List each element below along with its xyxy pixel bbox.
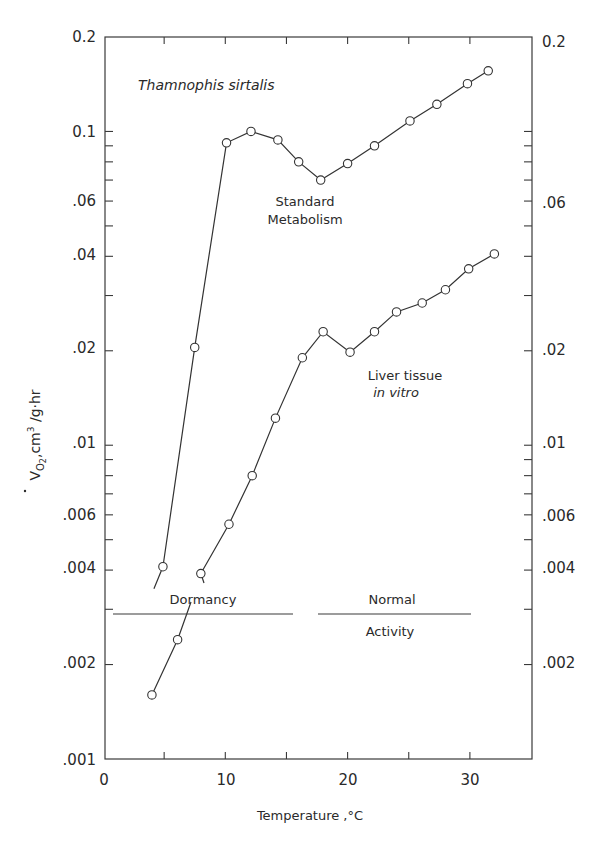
standard-metabolism-point [343, 159, 351, 167]
y-title-unit: ,cm [27, 432, 43, 458]
standard-metabolism-point [274, 136, 282, 144]
standard-metabolism-point [159, 563, 167, 571]
chart-title: Thamnophis sirtalis [138, 77, 275, 93]
y-tick-label: .01 [72, 434, 96, 452]
standard-metabolism-point [433, 100, 441, 108]
standard-metabolism-point [484, 67, 492, 75]
y-axis-left-labels: 0.2 0.1 .06 .04 .02 .01 .006 .004 .002 .… [63, 28, 96, 769]
y-tick-label: 0.1 [72, 123, 96, 141]
y-tick-label: .04 [72, 246, 96, 264]
standard-metabolism-point [316, 176, 324, 184]
liver-tissue-point [441, 286, 449, 294]
activity-label: Activity [366, 624, 415, 639]
liver-tissue-point [418, 299, 426, 307]
y-title-dot [24, 490, 26, 492]
x-axis-title: Temperature ,°C [256, 808, 363, 823]
series-label-standard-2: Metabolism [267, 212, 342, 227]
liver-tissue-point [464, 265, 472, 273]
liver-tissue-point [490, 250, 498, 258]
liver-tissue-point [370, 328, 378, 336]
x-tick-label: 20 [338, 771, 357, 789]
standard-metabolism-point [191, 343, 199, 351]
y-tick-label: .06 [72, 192, 96, 210]
liver-tissue-line-lower [152, 602, 191, 695]
y-tick-label: 0.2 [72, 28, 96, 46]
y-tick-label: .006 [63, 506, 96, 524]
axis-ticks [105, 37, 532, 759]
series-label-standard-1: Standard [275, 194, 334, 209]
y-tick-label: .02 [72, 339, 96, 357]
liver-tissue-line-upper [201, 254, 495, 583]
liver-tissue-point [346, 348, 354, 356]
svg-text:VO2,cm3 /g·hr: VO2,cm3 /g·hr [26, 389, 48, 480]
standard-metabolism-point [294, 158, 302, 166]
liver-tissue-point [298, 354, 306, 362]
liver-tissue-point [225, 520, 233, 528]
liver-tissue-point [148, 691, 156, 699]
standard-metabolism-point [370, 142, 378, 150]
y-tick-label-right: .006 [542, 507, 575, 525]
plot-frame [105, 37, 532, 759]
y-axis-title: VO2,cm3 /g·hr [24, 389, 48, 492]
y-tick-label-right: .06 [542, 194, 566, 212]
y-tick-label: .001 [63, 751, 96, 769]
standard-metabolism-point [222, 139, 230, 147]
series-label-liver-2: in vitro [373, 385, 419, 400]
liver-tissue-point [392, 308, 400, 316]
y-tick-label: .002 [63, 654, 96, 672]
x-tick-label: 10 [216, 771, 235, 789]
y-tick-label: .004 [63, 559, 96, 577]
standard-metabolism-point [406, 117, 414, 125]
metabolism-chart: 0.2 0.1 .06 .04 .02 .01 .006 .004 .002 .… [0, 0, 594, 849]
dormancy-label: Dormancy [170, 592, 237, 607]
y-tick-label-right: 0.2 [542, 33, 566, 51]
liver-tissue-point [271, 414, 279, 422]
normal-label: Normal [368, 592, 415, 607]
y-tick-label-right: .02 [542, 341, 566, 359]
liver-tissue-point [248, 471, 256, 479]
x-tick-label: 0 [99, 771, 109, 789]
liver-tissue-point [319, 328, 327, 336]
x-tick-label: 30 [460, 771, 479, 789]
y-title-v: V [27, 471, 43, 481]
y-tick-label-right: .004 [542, 559, 575, 577]
series-label-liver-1: Liver tissue [368, 368, 443, 383]
y-axis-right-labels: 0.2 .06 .02 .01 .006 .004 .002 [542, 33, 575, 672]
liver-tissue-point [197, 569, 205, 577]
y-tick-label-right: .01 [542, 434, 566, 452]
standard-metabolism-point [463, 79, 471, 87]
y-tick-label-right: .002 [542, 654, 575, 672]
x-axis-labels: 0 10 20 30 [99, 771, 479, 789]
standard-metabolism-point [247, 127, 255, 135]
y-title-tail: /g·hr [27, 389, 43, 426]
y-title-sub: O [35, 463, 46, 471]
liver-tissue-point [173, 636, 181, 644]
